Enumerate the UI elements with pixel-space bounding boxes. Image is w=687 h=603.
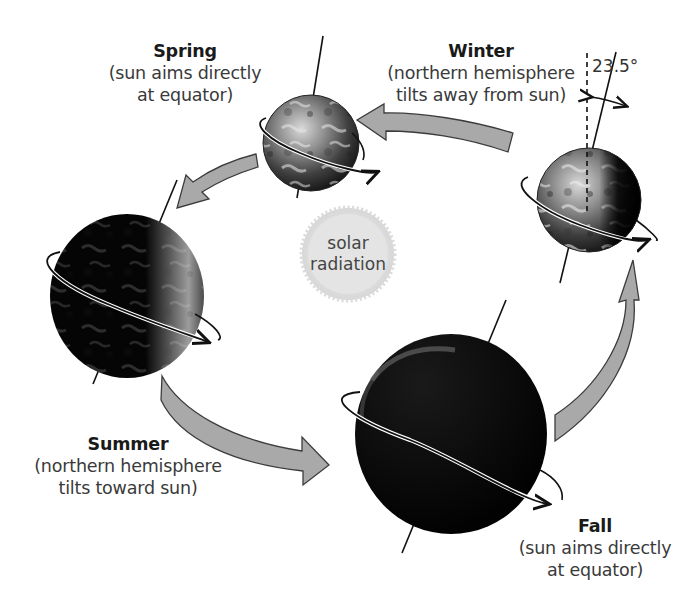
season-title: Spring — [75, 40, 295, 62]
season-desc-line2: at equator) — [75, 84, 295, 106]
season-desc-line1: (sun aims directly — [495, 537, 687, 559]
season-label-winter: Winter (northern hemisphere tilts away f… — [371, 40, 591, 106]
sun-line2: radiation — [310, 254, 386, 274]
season-desc-line2: tilts away from sun) — [371, 84, 591, 106]
solar-radiation-label: solar radiation — [298, 233, 398, 275]
season-desc-line1: (sun aims directly — [75, 62, 295, 84]
angle-arrow — [591, 97, 626, 106]
season-label-spring: Spring (sun aims directly at equator) — [75, 40, 295, 106]
season-desc-line1: (northern hemisphere — [18, 455, 238, 477]
season-title: Fall — [495, 515, 687, 537]
orbit-arrow-spring-to-summer — [177, 154, 258, 208]
globe-summer — [47, 180, 220, 384]
season-label-fall: Fall (sun aims directly at equator) — [495, 515, 687, 581]
sun-line1: solar — [327, 233, 368, 253]
season-desc-line2: at equator) — [495, 559, 687, 581]
season-title: Summer — [18, 433, 238, 455]
tilt-angle-label: 23.5° — [592, 56, 638, 76]
orbit-arrow-fall-to-winter — [555, 260, 639, 441]
season-title: Winter — [371, 40, 591, 62]
season-desc-line2: tilts toward sun) — [18, 477, 238, 499]
orbit-arrow-winter-to-spring — [357, 104, 513, 152]
season-label-summer: Summer (northern hemisphere tilts toward… — [18, 433, 238, 499]
season-desc-line1: (northern hemisphere — [371, 62, 591, 84]
